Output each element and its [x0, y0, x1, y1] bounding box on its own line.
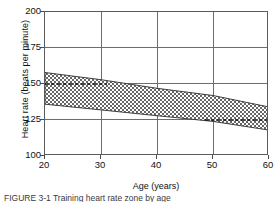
y-tick-label-175: 175 — [3, 42, 41, 52]
x-tick-label-20: 20 — [29, 160, 59, 170]
target-zone-band — [45, 12, 268, 155]
target-zone-polygon — [45, 73, 268, 131]
y-tick-label-125: 125 — [3, 114, 41, 124]
x-axis-tick-labels: 20 30 40 50 60 — [0, 160, 279, 174]
plot-area — [44, 11, 268, 155]
y-tick-label-100: 100 — [3, 150, 41, 160]
figure-root: Heart rate (beats per minute) 200 175 15… — [0, 0, 279, 202]
x-tick-label-60: 60 — [253, 160, 279, 170]
x-tick-label-30: 30 — [85, 160, 115, 170]
figure-caption: FIGURE 3-1 Training heart rate zone by a… — [4, 193, 279, 202]
x-tick-label-40: 40 — [141, 160, 171, 170]
x-axis-label: Age (years) — [44, 181, 268, 191]
x-tick-label-50: 50 — [197, 160, 227, 170]
y-tick-label-200: 200 — [3, 6, 41, 16]
y-tick-label-150: 150 — [3, 78, 41, 88]
